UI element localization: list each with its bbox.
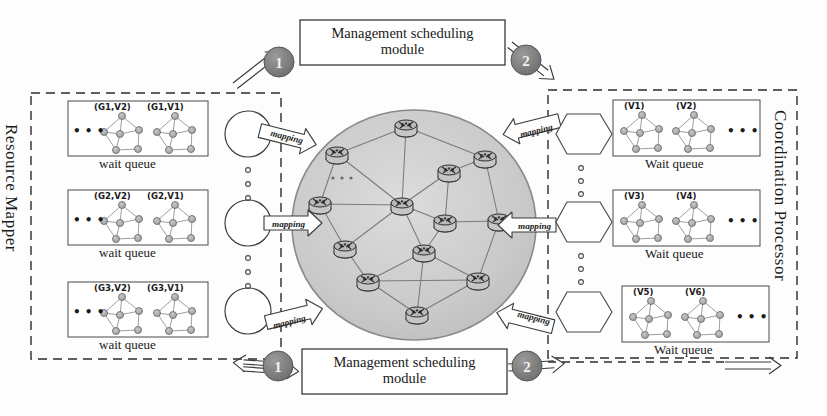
mapping-label-right-2: mapping xyxy=(518,221,551,231)
router-icon xyxy=(467,273,489,290)
wait-queue-right-label-1: Wait queue xyxy=(645,156,704,172)
router-icon xyxy=(438,165,460,182)
graph-label-g2v2: (G2,V2) xyxy=(94,191,131,201)
right-ellipsis-3: • • • xyxy=(736,310,767,324)
left-ellipsis-3: • • • xyxy=(73,305,104,319)
router-icon xyxy=(326,147,348,164)
graph-label-v4: (V4) xyxy=(676,191,697,201)
management-module-top-label: Management scheduling module xyxy=(300,25,505,57)
graph-label-g2v1: (G2,V1) xyxy=(147,191,184,201)
right-ellipsis-2: • • • xyxy=(727,214,758,228)
left-ellipsis-2: • • • xyxy=(73,213,104,227)
graph-label-v1: (V1) xyxy=(624,101,645,111)
router-icon xyxy=(395,120,417,137)
diagram-canvas: 1 2 1 2 Resource Mapper Coordination Pro… xyxy=(0,0,827,416)
wait-queue-label-3: wait queue xyxy=(99,337,156,353)
wait-queue-right-label-3: Wait queue xyxy=(654,342,713,358)
router-icon xyxy=(357,274,379,291)
resource-mapper-label: Resource Mapper xyxy=(1,124,21,252)
router-icon xyxy=(309,197,331,214)
router-icon xyxy=(474,151,496,168)
wait-queue-label-2: wait queue xyxy=(99,245,156,261)
management-module-bottom-label: Management scheduling module xyxy=(302,354,507,386)
router-icon xyxy=(391,198,413,215)
graph-label-v3: (V3) xyxy=(624,191,645,201)
graph-label-v2: (V2) xyxy=(676,101,697,111)
module-bottom-line1: Management scheduling xyxy=(302,354,507,370)
result-hexagon[interactable] xyxy=(556,202,612,242)
wait-queue-right-label-2: Wait queue xyxy=(645,246,704,262)
wait-queue-label-1: wait queue xyxy=(99,156,156,172)
mapping-label-left-2: mapping xyxy=(272,219,305,229)
graph-label-g3v1: (G3,V1) xyxy=(147,283,184,293)
badge-top-left-text: 1 xyxy=(275,55,283,71)
graph-label-v5: (V5) xyxy=(633,287,654,297)
router-icon xyxy=(434,215,456,232)
right-hexagons xyxy=(556,114,612,332)
graph-label-g1v2: (G1,V2) xyxy=(94,102,131,112)
graph-label-v6: (V6) xyxy=(685,287,706,297)
badge-bottom-left-text: 1 xyxy=(274,359,282,375)
result-hexagon[interactable] xyxy=(556,292,612,332)
module-top-line1: Management scheduling xyxy=(300,25,505,41)
graph-label-g3v2: (G3,V2) xyxy=(94,283,131,293)
result-hexagon[interactable] xyxy=(556,114,612,154)
connector-bottom-right-tail xyxy=(725,357,781,374)
router-icon xyxy=(413,245,435,262)
router-icon xyxy=(334,241,356,258)
left-ellipsis-1: • • • xyxy=(73,124,104,138)
coordination-processor-label: Coordination Processor xyxy=(770,110,790,281)
right-ellipsis-1: • • • xyxy=(727,124,758,138)
badge-top-right-text: 2 xyxy=(522,53,530,69)
module-bottom-line2: module xyxy=(302,370,507,386)
module-top-line2: module xyxy=(300,41,505,57)
graph-label-g1v1: (G1,V1) xyxy=(147,102,184,112)
router-icon xyxy=(406,307,428,324)
badge-bottom-right-text: 2 xyxy=(523,359,531,375)
request-circle[interactable] xyxy=(225,288,271,334)
